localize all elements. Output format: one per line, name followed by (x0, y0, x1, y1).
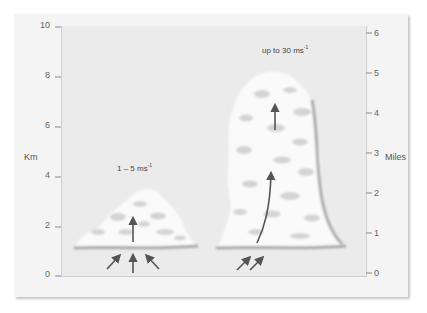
tall-cloud-speed-label: up to 30 ms-1 (262, 44, 308, 55)
arrow-inflow-right-icon (147, 256, 159, 269)
arrow-inflow-left-icon (237, 258, 249, 270)
tall-cloud (216, 72, 346, 249)
arrow-inflow-right-icon (250, 258, 262, 270)
speed-text: up to 30 ms (262, 46, 304, 55)
diagram-artwork (0, 0, 427, 313)
small-cloud (74, 189, 198, 248)
speed-text: 1 – 5 ms (117, 164, 148, 173)
arrow-inflow-left-icon (107, 256, 119, 269)
speed-exponent: -1 (148, 162, 152, 168)
speed-exponent: -1 (304, 44, 308, 50)
small-cloud-speed-label: 1 – 5 ms-1 (117, 162, 152, 173)
